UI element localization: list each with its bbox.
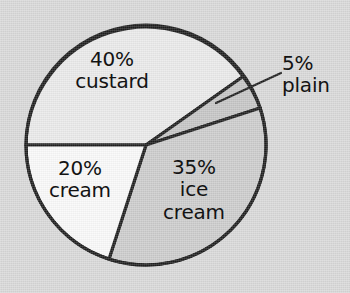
pie-label-cream: 20% cream [30,157,130,202]
pie-chart-graphic [0,0,350,293]
pie-label-cream-percent: 20% [30,157,130,179]
pie-label-ice-cream: 35% ice cream [148,156,240,223]
pie-chart-figure: 40% custard 20% cream 35% ice cream 5% p… [0,0,350,293]
pie-label-plain-percent: 5% [282,52,348,74]
pie-label-plain: 5% plain [282,52,348,97]
pie-label-custard-percent: 40% [52,48,172,70]
pie-label-cream-name: cream [30,179,130,201]
pie-label-plain-name: plain [282,74,348,96]
pie-label-ice-cream-percent: 35% [148,156,240,178]
pie-label-custard-name: custard [52,70,172,92]
pie-label-custard: 40% custard [52,48,172,93]
pie-label-ice-cream-name-line2: cream [148,201,240,223]
pie-label-ice-cream-name-line1: ice [148,178,240,200]
